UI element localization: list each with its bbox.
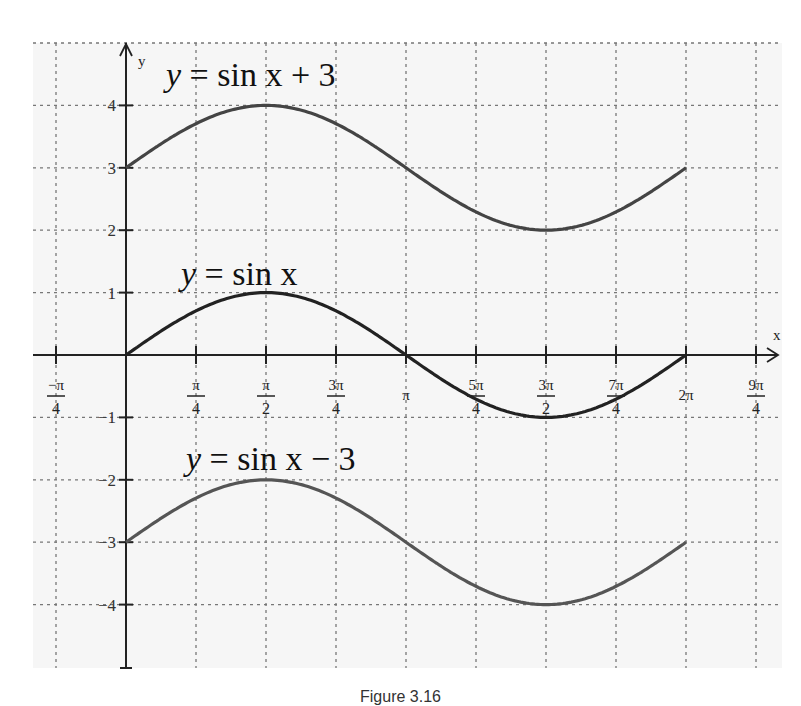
y-tick-label: 2 (108, 221, 117, 240)
x-tick-denominator: 4 (52, 400, 60, 417)
curve-label-lhs: y (183, 440, 210, 477)
x-tick-denominator: 2 (542, 400, 550, 417)
x-tick-numerator: π (192, 377, 200, 393)
x-tick-label: π (402, 387, 410, 403)
curve-label-rhs: = sin x + 3 (190, 56, 336, 93)
x-tick-numerator: π (262, 377, 270, 393)
x-tick-denominator: 2 (262, 400, 270, 417)
y-tick-label: 1 (108, 284, 117, 303)
x-tick-denominator: 4 (332, 400, 340, 417)
y-tick-label: 4 (108, 96, 117, 115)
x-tick-numerator: 3π (328, 377, 344, 393)
x-tick-denominator: 4 (192, 400, 200, 417)
curve-label-lhs: y (163, 56, 190, 93)
y-tick-label: −1 (98, 408, 116, 427)
x-tick-denominator: 4 (472, 400, 480, 417)
curve-label: y = sin x + 3 (163, 56, 336, 93)
curve-label: y = sin x (178, 255, 297, 292)
x-tick-denominator: 4 (612, 400, 620, 417)
curve-label-rhs: = sin x (205, 255, 298, 292)
y-tick-label: 3 (108, 159, 117, 178)
y-tick-label: −4 (98, 596, 117, 615)
x-tick-label: 2π (678, 387, 694, 403)
curve-label: y = sin x − 3 (183, 440, 356, 477)
figure-caption: Figure 3.16 (0, 688, 801, 706)
x-tick-numerator: −π (48, 377, 64, 393)
curve-label-lhs: y (178, 255, 205, 292)
x-tick-numerator: 9π (748, 377, 764, 393)
y-tick-label: −3 (98, 533, 116, 552)
y-tick-label: −2 (98, 471, 116, 490)
x-axis-label: x (773, 327, 781, 343)
x-tick-denominator: 4 (752, 400, 760, 417)
curve-label-rhs: = sin x − 3 (210, 440, 356, 477)
x-tick-numerator: 5π (468, 377, 484, 393)
y-axis-label: y (138, 53, 146, 69)
x-tick-numerator: 3π (538, 377, 554, 393)
x-tick-numerator: 7π (608, 377, 624, 393)
